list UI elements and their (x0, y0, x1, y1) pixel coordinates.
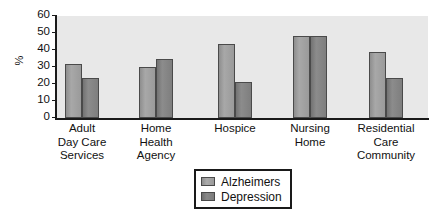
bar (386, 78, 403, 118)
legend-label: Alzheimers (221, 176, 280, 188)
x-axis-label-line: Residential (341, 122, 431, 136)
y-axis-tick-labels: 6050403020100 (22, 10, 50, 122)
bar (156, 59, 173, 118)
legend-swatch (201, 192, 215, 201)
y-axis-tick-label: 10 (22, 94, 50, 106)
bar (235, 82, 252, 118)
y-axis-tick-label: 40 (22, 43, 50, 55)
bar (293, 36, 310, 118)
legend-item: Depression (201, 189, 282, 204)
x-axis-line (55, 118, 429, 120)
legend: AlzheimersDepression (194, 169, 292, 209)
x-axis-label-line: Home (111, 122, 201, 136)
legend-swatch (201, 177, 215, 186)
y-axis-tick-label: 50 (22, 26, 50, 38)
x-axis-category-label: ResidentialCareCommunity (341, 122, 431, 163)
bar (65, 64, 82, 118)
legend-item: Alzheimers (201, 174, 282, 189)
bar (139, 67, 156, 118)
y-axis-tick-label: 60 (22, 9, 50, 21)
x-axis-label-line: Agency (111, 149, 201, 163)
legend-label: Depression (221, 191, 282, 203)
y-axis-tick-label: 20 (22, 77, 50, 89)
x-axis-category-labels: AdultDay CareServicesHomeHealthAgencyHos… (55, 122, 429, 168)
x-axis-label-line: Health (111, 136, 201, 150)
y-axis-tick-label: 30 (22, 60, 50, 72)
y-axis-tick-label: 0 (22, 111, 50, 123)
bar-chart: % 6050403020100 AdultDay CareServicesHom… (0, 0, 445, 222)
bar (310, 36, 327, 118)
x-axis-label-line: Community (341, 149, 431, 163)
bar (82, 78, 99, 118)
x-axis-category-label: HomeHealthAgency (111, 122, 201, 163)
x-axis-label-line: Care (341, 136, 431, 150)
bar (369, 52, 386, 118)
bar (218, 44, 235, 118)
plot-area (57, 16, 428, 118)
